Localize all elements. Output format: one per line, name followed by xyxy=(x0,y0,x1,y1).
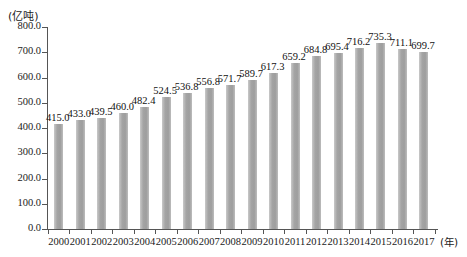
bar xyxy=(76,120,85,229)
bar xyxy=(54,124,63,229)
y-axis-tick xyxy=(42,27,47,28)
x-axis-tick xyxy=(112,230,113,234)
y-axis-tick-label: 500.0 xyxy=(1,97,41,107)
y-axis-tick xyxy=(42,128,47,129)
y-axis-tick-label-wrap: 300.0 xyxy=(0,147,41,157)
bar xyxy=(162,97,171,229)
y-axis-tick-label: 700.0 xyxy=(1,46,41,56)
x-axis-tick xyxy=(435,230,436,234)
x-axis-tick-label: 2017 xyxy=(404,236,444,248)
y-axis-tick xyxy=(42,103,47,104)
bar xyxy=(269,73,278,229)
x-axis-tick xyxy=(91,230,92,234)
bar xyxy=(334,53,343,229)
y-axis-tick-label-wrap: 600.0 xyxy=(0,72,41,82)
x-axis-tick xyxy=(306,230,307,234)
y-axis-tick-label: 400.0 xyxy=(1,122,41,132)
x-axis-tick xyxy=(284,230,285,234)
x-axis-tick xyxy=(413,230,414,234)
y-axis-tick-label-wrap: 400.0 xyxy=(0,122,41,132)
bar-value-label: 617.3 xyxy=(249,61,297,72)
bar xyxy=(226,85,235,229)
y-axis-tick-label: 100.0 xyxy=(1,198,41,208)
bar xyxy=(312,56,321,229)
x-axis-unit-label: (年) xyxy=(440,236,458,248)
x-axis-tick xyxy=(155,230,156,234)
y-axis-tick xyxy=(42,229,47,230)
y-axis-tick xyxy=(42,153,47,154)
bar-value-label: 482.4 xyxy=(120,95,168,106)
bar xyxy=(419,52,428,229)
x-axis-line xyxy=(47,229,438,230)
y-axis-tick-label: 200.0 xyxy=(1,173,41,183)
y-axis-tick-label-wrap: 700.0 xyxy=(0,46,41,56)
x-axis-tick xyxy=(177,230,178,234)
bar xyxy=(183,93,192,229)
x-axis-tick xyxy=(134,230,135,234)
x-axis-tick xyxy=(48,230,49,234)
y-axis-tick xyxy=(42,179,47,180)
y-axis-tick xyxy=(42,52,47,53)
y-axis-tick xyxy=(42,78,47,79)
y-axis-tick-label: 0.0 xyxy=(1,223,41,233)
bar xyxy=(140,107,149,229)
y-axis-tick xyxy=(42,204,47,205)
x-axis-tick xyxy=(198,230,199,234)
x-axis-tick xyxy=(263,230,264,234)
y-axis-tick-label-wrap: 100.0 xyxy=(0,198,41,208)
x-axis-tick xyxy=(327,230,328,234)
x-axis-tick xyxy=(349,230,350,234)
y-axis-tick-label: 300.0 xyxy=(1,147,41,157)
bar xyxy=(355,48,364,229)
y-axis-tick-label-wrap: 200.0 xyxy=(0,173,41,183)
y-axis-tick-label-wrap: 0.0 xyxy=(0,223,41,233)
bar xyxy=(205,88,214,229)
bar xyxy=(119,113,128,229)
bar xyxy=(376,43,385,229)
y-axis-tick-label-wrap: 800.0 xyxy=(0,21,41,31)
y-axis-line xyxy=(47,27,48,230)
x-axis-tick xyxy=(220,230,221,234)
bar xyxy=(248,80,257,229)
x-axis-tick xyxy=(370,230,371,234)
y-axis-tick-label: 600.0 xyxy=(1,72,41,82)
bar-value-label: 699.7 xyxy=(399,40,447,51)
x-axis-tick xyxy=(241,230,242,234)
y-axis-tick-label-wrap: 500.0 xyxy=(0,97,41,107)
x-axis-tick xyxy=(392,230,393,234)
bar xyxy=(398,49,407,229)
bar xyxy=(291,63,300,229)
bar-chart: (亿吨) 0.0100.0200.0300.0400.0500.0600.070… xyxy=(0,0,467,257)
bar xyxy=(97,118,106,229)
y-axis-tick-label: 800.0 xyxy=(1,21,41,31)
x-axis-tick xyxy=(69,230,70,234)
